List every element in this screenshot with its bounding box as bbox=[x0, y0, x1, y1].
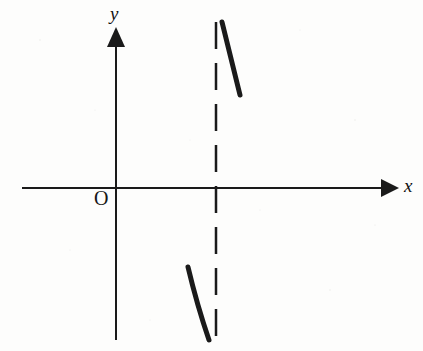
curve-branch-upper-right bbox=[222, 22, 240, 95]
y-axis-arrow-icon bbox=[107, 27, 125, 47]
x-axis-label: x bbox=[404, 176, 412, 195]
y-axis-label: y bbox=[110, 4, 118, 23]
coordinate-plane-figure: y x O bbox=[0, 0, 423, 351]
x-axis-arrow-icon bbox=[381, 179, 399, 197]
curve-branch-lower-left bbox=[188, 267, 209, 340]
origin-label: O bbox=[94, 188, 108, 208]
figure-canvas bbox=[0, 0, 423, 351]
